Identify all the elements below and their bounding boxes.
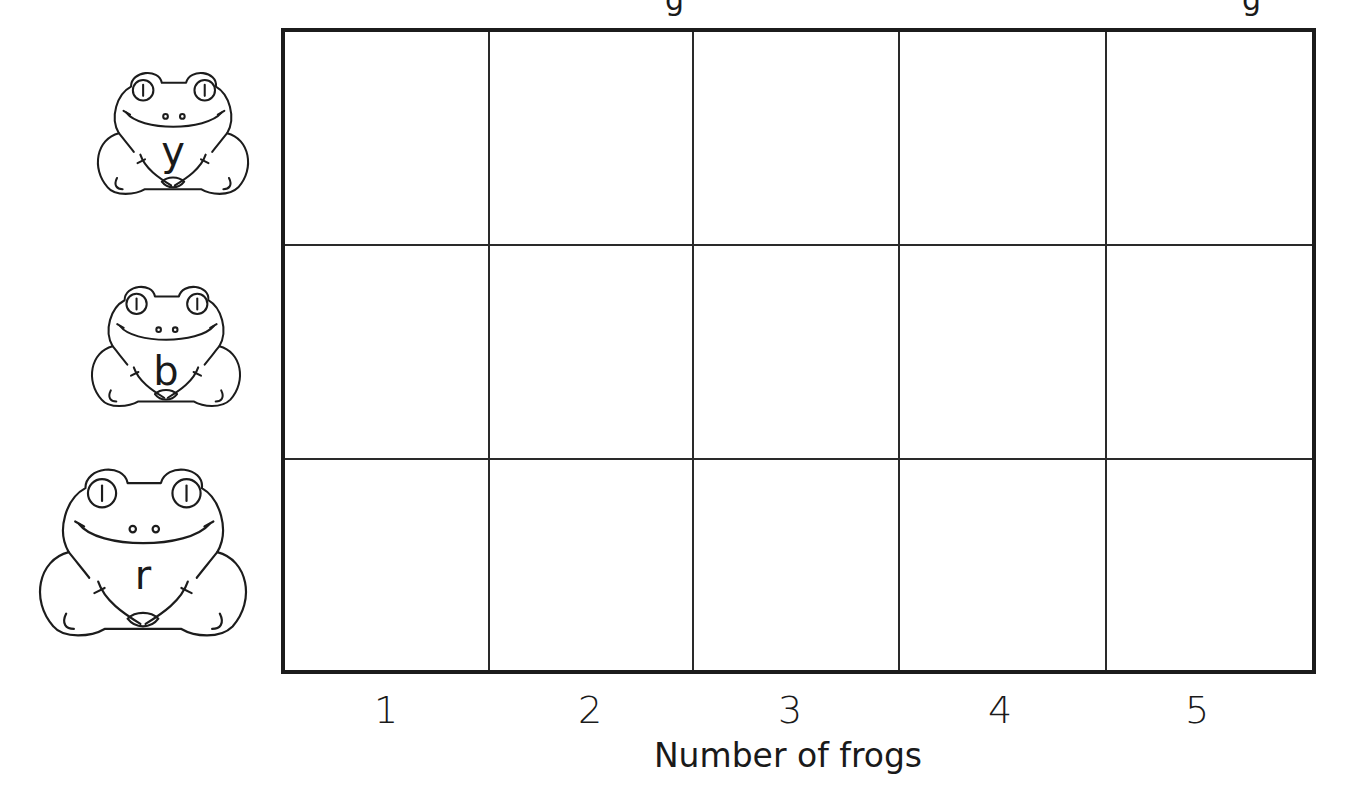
row-label-y: y bbox=[161, 128, 185, 174]
x-tick-3: 3 bbox=[778, 688, 802, 732]
grid-cell-b-1[interactable] bbox=[285, 246, 488, 458]
grid-cell-y-5[interactable] bbox=[1107, 32, 1312, 244]
x-axis-label: Number of frogs bbox=[654, 736, 922, 775]
grid-cell-b-2[interactable] bbox=[490, 246, 692, 458]
grid-cell-r-2[interactable] bbox=[490, 460, 692, 670]
grid-cell-r-5[interactable] bbox=[1107, 460, 1312, 670]
grid-cell-y-3[interactable] bbox=[694, 32, 898, 244]
row-frog-b: b bbox=[80, 280, 252, 418]
grid-cell-r-3[interactable] bbox=[694, 460, 898, 670]
x-tick-4: 4 bbox=[988, 688, 1012, 732]
grid-cell-y-4[interactable] bbox=[900, 32, 1105, 244]
grid-cell-y-1[interactable] bbox=[285, 32, 488, 244]
grid-cell-b-4[interactable] bbox=[900, 246, 1105, 458]
row-frog-r: r bbox=[24, 460, 262, 652]
grid-cell-r-4[interactable] bbox=[900, 460, 1105, 670]
x-tick-1: 1 bbox=[374, 688, 398, 732]
row-frog-y: y bbox=[88, 66, 258, 206]
grid-cell-y-2[interactable] bbox=[490, 32, 692, 244]
row-label-b: b bbox=[153, 348, 178, 394]
x-tick-2: 2 bbox=[578, 688, 602, 732]
grid-cell-b-3[interactable] bbox=[694, 246, 898, 458]
row-label-r: r bbox=[135, 552, 151, 598]
pictograph-grid bbox=[281, 28, 1316, 674]
x-tick-5: 5 bbox=[1185, 688, 1209, 732]
grid-cell-b-5[interactable] bbox=[1107, 246, 1312, 458]
grid-cell-r-1[interactable] bbox=[285, 460, 488, 670]
